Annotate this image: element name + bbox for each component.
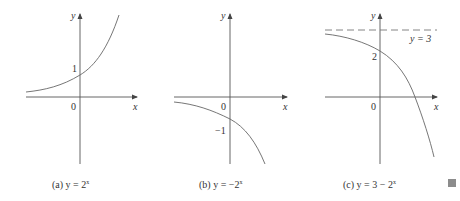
figure-canvas: y x 0 1 (a) y = 2x y x 0 −1 (b) y = −2x … xyxy=(0,0,460,201)
y-axis-label: y xyxy=(70,10,76,21)
x-axis-label: x xyxy=(282,101,288,112)
tick-label: −1 xyxy=(215,125,226,136)
x-axis-label: x xyxy=(433,101,439,112)
y-axis-label: y xyxy=(370,10,376,21)
curve-2-pow-x xyxy=(26,15,119,92)
caption-b: (b) y = −2x xyxy=(199,179,242,191)
tick-label: 2 xyxy=(372,51,377,62)
end-of-proof-square xyxy=(448,179,456,187)
caption-a: (a) y = 2x xyxy=(52,179,89,191)
x-axis-label: x xyxy=(132,101,138,112)
panel-c: y x 0 2 y = 3 (c) y = 3 − 2x xyxy=(325,10,439,191)
origin-label: 0 xyxy=(371,101,376,112)
origin-label: 0 xyxy=(221,101,226,112)
y-axis-label: y xyxy=(220,10,226,21)
origin-label: 0 xyxy=(71,101,76,112)
curve-3-minus-2-pow-x xyxy=(325,34,434,157)
asymptote-label: y = 3 xyxy=(409,33,431,44)
caption-c: (c) y = 3 − 2x xyxy=(343,179,396,191)
panel-a: y x 0 1 (a) y = 2x xyxy=(26,10,138,191)
tick-label: 1 xyxy=(72,63,77,74)
panel-b: y x 0 −1 (b) y = −2x xyxy=(174,10,288,191)
